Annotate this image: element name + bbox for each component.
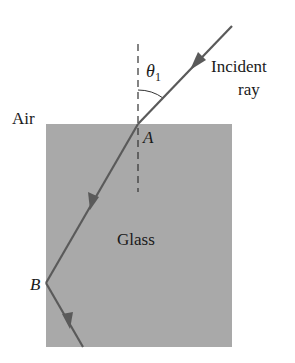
- air-label: Air: [12, 109, 35, 128]
- theta-label: θ: [146, 61, 155, 81]
- incident-label-line2: ray: [238, 80, 260, 99]
- point-a-label: A: [142, 128, 154, 147]
- point-b-label: B: [30, 275, 41, 294]
- incident-label-line1: Incident: [211, 57, 267, 76]
- glass-label: Glass: [117, 230, 155, 249]
- theta-subscript: 1: [155, 70, 161, 84]
- refraction-diagram: Air Glass A B Incident ray θ 1: [0, 0, 295, 363]
- angle-arc: [138, 90, 163, 98]
